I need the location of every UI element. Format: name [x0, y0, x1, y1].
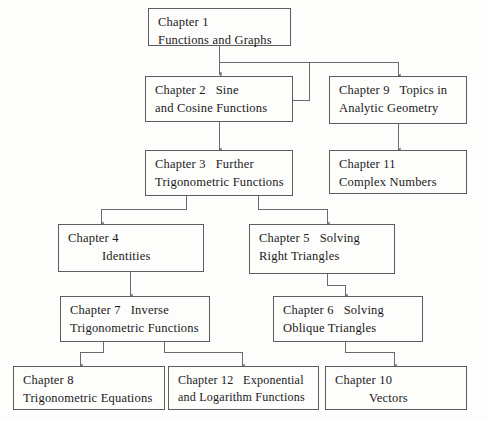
node-chapter-9-line-2: Analytic Geometry: [339, 100, 457, 118]
node-chapter-1-line-2: Functions and Graphs: [158, 32, 281, 50]
node-chapter-11-line-2: Complex Numbers: [339, 174, 457, 192]
connector-ch7-ch8: [80, 342, 103, 366]
node-chapter-7-line-1: Chapter 7 Inverse: [70, 302, 200, 320]
node-chapter-10-line-2: Vectors: [335, 390, 457, 408]
node-chapter-4-line-2: Identities: [68, 248, 194, 266]
node-chapter-2[interactable]: Chapter 2 Sine and Cosine Functions: [145, 76, 293, 122]
node-chapter-4[interactable]: Chapter 4 Identities: [58, 224, 204, 272]
connector-ch2-ch9: [293, 62, 309, 100]
node-chapter-7-line-2: Trigonometric Functions: [70, 320, 200, 338]
node-chapter-1-line-1: Chapter 1: [158, 14, 281, 32]
node-chapter-12-line-1: Chapter 12 Exponential: [178, 372, 309, 389]
node-chapter-6-line-1: Chapter 6 Solving: [283, 302, 413, 320]
connector-layer: [0, 0, 488, 421]
node-chapter-6[interactable]: Chapter 6 Solving Oblique Triangles: [273, 296, 423, 342]
node-chapter-2-line-2: and Cosine Functions: [155, 100, 283, 118]
connector-ch5-ch6: [327, 274, 345, 296]
node-chapter-3[interactable]: Chapter 3 Further Trigonometric Function…: [145, 150, 293, 196]
node-chapter-8-line-2: Trigonometric Equations: [23, 390, 155, 408]
flowchart-page: Chapter 1 Functions and Graphs Chapter 2…: [0, 0, 488, 421]
node-chapter-2-line-1: Chapter 2 Sine: [155, 82, 283, 100]
node-chapter-11-line-1: Chapter 11: [339, 156, 457, 174]
connector-ch7-ch12: [164, 342, 242, 366]
node-chapter-10-line-1: Chapter 10: [335, 372, 457, 390]
node-chapter-4-line-1: Chapter 4: [68, 230, 194, 248]
node-chapter-8[interactable]: Chapter 8 Trigonometric Equations: [13, 366, 165, 410]
connector-ch6-ch10: [345, 342, 394, 366]
node-chapter-5-line-1: Chapter 5 Solving: [259, 230, 385, 248]
node-chapter-6-line-2: Oblique Triangles: [283, 320, 413, 338]
node-chapter-9[interactable]: Chapter 9 Topics in Analytic Geometry: [329, 76, 467, 124]
connector-ch1-ch9: [219, 46, 398, 76]
node-chapter-1[interactable]: Chapter 1 Functions and Graphs: [148, 8, 291, 46]
node-chapter-7[interactable]: Chapter 7 Inverse Trigonometric Function…: [60, 296, 210, 342]
node-chapter-3-line-2: Trigonometric Functions: [155, 174, 283, 192]
connector-ch3-ch5: [258, 196, 327, 224]
connector-ch3-ch4: [101, 196, 186, 224]
node-chapter-12-line-2: and Logarithm Functions: [178, 389, 309, 406]
node-chapter-12[interactable]: Chapter 12 Exponential and Logarithm Fun…: [168, 366, 319, 410]
node-chapter-10[interactable]: Chapter 10 Vectors: [325, 366, 467, 410]
node-chapter-3-line-1: Chapter 3 Further: [155, 156, 283, 174]
node-chapter-9-line-1: Chapter 9 Topics in: [339, 82, 457, 100]
node-chapter-8-line-1: Chapter 8: [23, 372, 155, 390]
node-chapter-5-line-2: Right Triangles: [259, 248, 385, 266]
node-chapter-5[interactable]: Chapter 5 Solving Right Triangles: [249, 224, 395, 274]
node-chapter-11[interactable]: Chapter 11 Complex Numbers: [329, 150, 467, 194]
